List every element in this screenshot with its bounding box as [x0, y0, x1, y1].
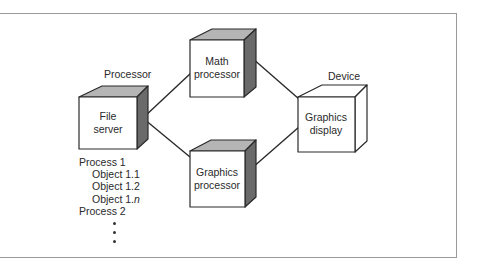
edge-fileserver-graphicsproc	[144, 119, 190, 157]
ellipsis-dot-3	[113, 240, 116, 243]
graphics-processor-label-line2: processor	[188, 179, 246, 192]
process-2-label: Process 2	[79, 205, 140, 217]
ellipsis-dot-1	[113, 222, 116, 225]
file-server-label-line2: server	[79, 123, 137, 136]
graphics-processor-label: Graphics processor	[188, 166, 246, 192]
processor-label: Processor	[104, 68, 151, 80]
object-1-n-suffix: n	[134, 193, 140, 205]
device-label: Device	[328, 70, 360, 82]
graphics-display-label-line1: Graphics	[297, 111, 355, 124]
math-processor-label-line2: processor	[188, 68, 246, 81]
process-object-list: Process 1 Object 1.1 Object 1.2 Object 1…	[79, 156, 140, 249]
object-1-1-label: Object 1.1	[79, 168, 140, 180]
edge-graphicsproc-display	[252, 127, 299, 168]
edge-math-display	[252, 58, 299, 99]
file-server-label-line1: File	[79, 110, 137, 123]
graphics-display-label: Graphics display	[297, 111, 355, 137]
ellipsis-dot-2	[113, 231, 116, 234]
file-server-label: File server	[79, 110, 137, 136]
object-1-n-prefix: Object 1.	[92, 193, 134, 205]
object-1-n-label: Object 1.n	[79, 193, 140, 205]
math-processor-label: Math processor	[188, 55, 246, 81]
math-processor-label-line1: Math	[188, 55, 246, 68]
process-1-label: Process 1	[79, 156, 140, 168]
diagram-canvas	[0, 0, 479, 274]
object-1-2-label: Object 1.2	[79, 180, 140, 192]
graphics-processor-label-line1: Graphics	[188, 166, 246, 179]
graphics-display-label-line2: display	[297, 124, 355, 137]
